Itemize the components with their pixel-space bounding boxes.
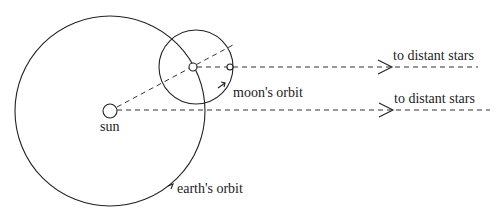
earths-orbit-label: earth's orbit [177, 181, 243, 196]
orbit-diagram: sun moon's orbit earth's orbit to distan… [0, 0, 503, 213]
sun-label: sun [100, 119, 119, 134]
earth-icon [189, 63, 197, 71]
to-distant-stars-upper-label: to distant stars [393, 48, 474, 63]
moons-orbit-label: moon's orbit [233, 85, 303, 100]
earths-orbit-arrow-icon [168, 184, 173, 189]
sun-icon [103, 104, 117, 118]
moon-icon [227, 64, 233, 70]
to-distant-stars-lower-label: to distant stars [394, 91, 475, 106]
